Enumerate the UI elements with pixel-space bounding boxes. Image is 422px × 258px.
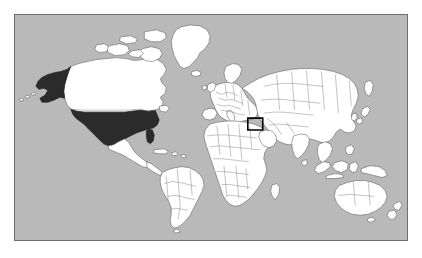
world-map-figure (0, 0, 422, 258)
map-frame (14, 14, 408, 241)
iberian-peninsula (202, 108, 217, 120)
canada-landmass (64, 58, 166, 113)
world-map-svg (15, 15, 407, 240)
